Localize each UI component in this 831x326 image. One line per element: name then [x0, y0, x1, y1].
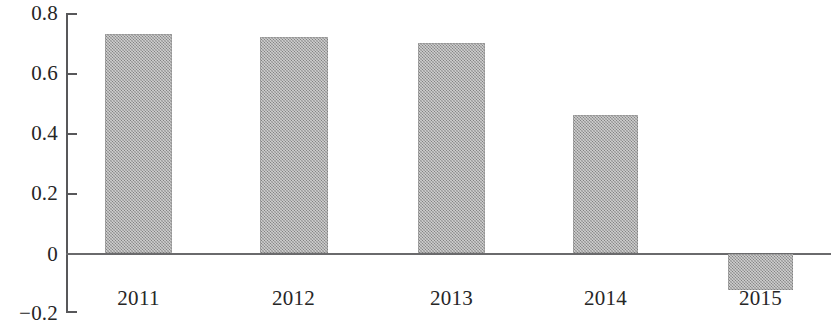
y-axis-tick-label: 0 [2, 244, 58, 265]
bar-2012 [260, 37, 328, 253]
y-axis-tick-label: −0.2 [2, 303, 58, 324]
y-axis-tick-label: 0.6 [2, 63, 58, 84]
bar-2014 [573, 115, 638, 253]
x-axis-tick-label-2015: 2015 [693, 287, 828, 309]
bar-2013 [418, 43, 485, 253]
y-axis-tick-label: 0.4 [2, 123, 58, 144]
x-axis-tick-label-2012: 2012 [226, 287, 361, 309]
y-axis-label-group: 0.8 0.6 0.4 0.2 0 −0.2 [0, 0, 58, 326]
bar-2011 [105, 34, 172, 253]
plot-area [68, 0, 831, 326]
x-axis-tick-label-2011: 2011 [71, 287, 206, 309]
y-axis-tick-label: 0.2 [2, 183, 58, 204]
bar-2015 [728, 254, 793, 290]
bar-chart: 0.8 0.6 0.4 0.2 0 −0.2 2011 2012 2013 20… [0, 0, 831, 326]
x-axis-tick-label-2013: 2013 [384, 287, 519, 309]
x-axis-tick-label-2014: 2014 [538, 287, 673, 309]
y-axis-tick-label: 0.8 [2, 3, 58, 24]
